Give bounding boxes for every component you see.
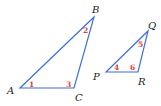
vertex-label-c: C xyxy=(75,92,83,103)
vertex-label-q: Q xyxy=(148,20,156,31)
vertex-label-b: B xyxy=(91,4,99,15)
triangle-pqr: P Q R 4 5 6 xyxy=(92,20,156,87)
angle-label-5: 5 xyxy=(138,40,143,49)
angle-label-1: 1 xyxy=(29,80,34,89)
angle-label-2: 2 xyxy=(83,26,88,35)
angle-label-4: 4 xyxy=(114,63,119,72)
vertex-label-r: R xyxy=(137,76,146,87)
vertex-label-a: A xyxy=(6,85,14,96)
angle-label-3: 3 xyxy=(66,80,71,89)
similar-triangles-diagram: A B C 1 2 3 P Q R 4 5 6 xyxy=(0,0,161,106)
vertex-label-p: P xyxy=(92,71,100,82)
triangle-abc: A B C 1 2 3 xyxy=(6,4,99,103)
angle-label-6: 6 xyxy=(130,63,135,72)
triangle-pqr-outline xyxy=(106,31,148,72)
